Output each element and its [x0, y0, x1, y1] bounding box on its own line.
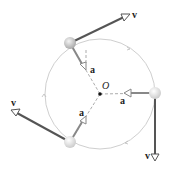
- velocity-label-top: v: [132, 9, 137, 20]
- particle-bottom-left: [64, 136, 76, 148]
- accel-label-bottom: a: [79, 107, 84, 118]
- acceleration-arrowheads: [80, 62, 131, 124]
- velocity-vectors: [17, 17, 155, 155]
- center-point: [98, 92, 102, 96]
- diagram-canvas: O v v v a a a: [0, 0, 171, 169]
- uniform-circular-motion-diagram: O v v v a a a: [0, 0, 171, 169]
- accel-label-top: a: [90, 64, 95, 75]
- velocity-label-left: v: [11, 97, 16, 108]
- center-label: O: [102, 80, 109, 91]
- particle-top: [64, 37, 76, 49]
- acceleration-vectors: [70, 43, 155, 142]
- velocity-label-right: v: [145, 150, 150, 161]
- accel-label-right: a: [120, 95, 125, 106]
- particle-right: [149, 87, 161, 99]
